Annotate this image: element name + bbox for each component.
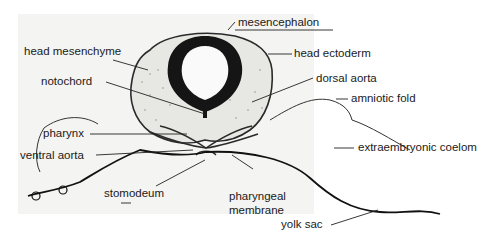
label-amniotic-fold: amniotic fold <box>351 92 416 105</box>
label-pharyngeal-membrane-line1: pharyngeal <box>229 190 286 203</box>
label-head-ectoderm: head ectoderm <box>294 47 371 60</box>
label-mesencephalon: mesencephalon <box>238 16 319 29</box>
label-dorsal-aorta: dorsal aorta <box>316 72 377 85</box>
label-head-mesenchyme: head mesenchyme <box>24 45 121 58</box>
label-stomodeum: stomodeum <box>104 187 164 200</box>
label-yolk-sac: yolk sac <box>281 218 323 231</box>
label-extraembryonic-coelom: extraembryonic coelom <box>358 141 477 154</box>
label-pharynx: pharynx <box>43 127 84 140</box>
label-notochord: notochord <box>41 75 92 88</box>
label-ventral-aorta: ventral aorta <box>20 149 84 162</box>
label-pharyngeal-membrane-line2: membrane <box>229 204 284 217</box>
